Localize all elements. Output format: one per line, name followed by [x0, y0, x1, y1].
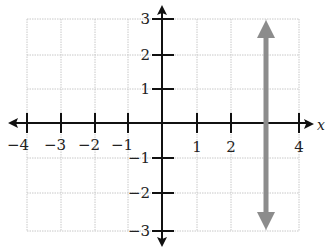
x-tick-label: −2 [78, 136, 100, 154]
y-tick-labels: 3 2 1 −1 −2 −3 [128, 10, 150, 240]
x-tick-label: 1 [192, 138, 202, 156]
line-up-arrow-icon [257, 20, 275, 38]
y-tick-label: −2 [128, 184, 150, 202]
x-axis-name: x [317, 117, 325, 133]
coordinate-plane: −4 −3 −2 −1 1 2 4 x 3 2 1 −1 −2 −3 [0, 0, 325, 252]
y-tick-label: 3 [140, 10, 150, 28]
y-axis [152, 5, 174, 247]
line-down-arrow-icon [257, 212, 275, 230]
y-tick-label: 1 [140, 80, 150, 98]
y-tick-label: −3 [128, 222, 150, 240]
x-tick-label: 4 [294, 138, 304, 156]
y-tick-label: 2 [140, 46, 150, 64]
x-tick-label: −3 [44, 136, 66, 154]
x-tick-labels: −4 −3 −2 −1 1 2 4 [7, 136, 304, 156]
x-tick-label: 2 [226, 138, 236, 156]
x-tick-label: −4 [7, 136, 29, 154]
line-x-equals-3 [257, 20, 275, 230]
y-tick-label: −1 [128, 149, 150, 167]
